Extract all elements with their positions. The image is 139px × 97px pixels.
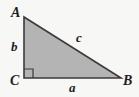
vertex-label-c: C — [10, 74, 19, 88]
vertex-label-a: A — [11, 6, 20, 20]
side-label-c: c — [76, 31, 82, 44]
side-label-a: a — [69, 81, 76, 94]
vertex-label-b: B — [123, 74, 132, 88]
side-label-b: b — [11, 40, 18, 53]
right-triangle-figure: A B C a b c — [0, 0, 139, 97]
